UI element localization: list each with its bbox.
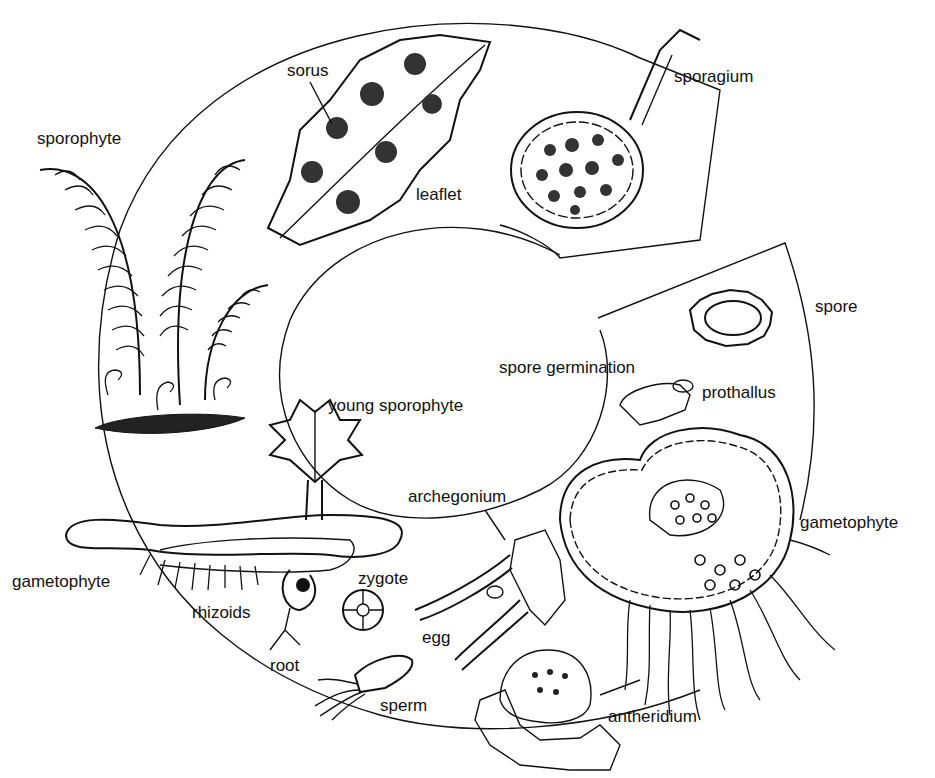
label-spore: spore bbox=[815, 298, 858, 315]
sporophyte-illustration bbox=[40, 160, 268, 433]
label-sporagium: sporagium bbox=[674, 68, 753, 85]
label-prothallus: prothallus bbox=[702, 384, 776, 401]
label-zygote: zygote bbox=[358, 570, 408, 587]
label-egg: egg bbox=[422, 629, 450, 646]
label-rhizoids: rhizoids bbox=[192, 604, 251, 621]
label-sperm: sperm bbox=[380, 697, 427, 714]
label-leaflet: leaflet bbox=[416, 186, 461, 203]
spore-panel bbox=[598, 243, 814, 520]
gametophyte-right-illustration bbox=[560, 428, 835, 720]
label-spore-germination: spore germination bbox=[499, 359, 635, 376]
label-young-sporophyte: young sporophyte bbox=[328, 397, 463, 414]
label-archegonium: archegonium bbox=[408, 488, 506, 505]
label-antheridium: antheridium bbox=[608, 708, 697, 725]
label-sporophyte: sporophyte bbox=[37, 130, 121, 147]
label-gametophyte-right: gametophyte bbox=[800, 514, 898, 531]
fern-life-cycle-diagram bbox=[0, 0, 935, 778]
zygote-illustration bbox=[343, 590, 383, 630]
sporagium-illustration bbox=[511, 30, 700, 228]
spore-illustration bbox=[690, 290, 772, 346]
label-sorus: sorus bbox=[287, 62, 329, 79]
sporagium-panel bbox=[500, 58, 720, 258]
prothallus-illustration bbox=[620, 380, 693, 425]
label-gametophyte-left: gametophyte bbox=[12, 573, 110, 590]
label-root: root bbox=[270, 657, 299, 674]
